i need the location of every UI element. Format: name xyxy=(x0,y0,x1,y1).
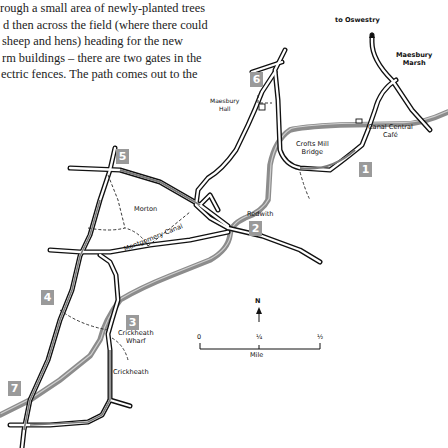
waypoint-badge-2: 2 xyxy=(249,221,262,236)
scale-tick-quarter: ¼ xyxy=(256,333,262,341)
label-crofts-mill-bridge: Crofts Mill Bridge xyxy=(296,141,329,156)
waypoint-badge-6: 6 xyxy=(250,72,263,87)
scale-tick-half: ½ xyxy=(317,333,323,341)
scale-unit: Mile xyxy=(250,351,263,359)
label-redwith: Redwith xyxy=(247,211,274,219)
waypoint-badge-1: 1 xyxy=(359,162,372,177)
walk-map: rough a small area of newly-planted tree… xyxy=(0,0,448,448)
label-maesbury-hall: Maesbury Hall xyxy=(210,97,239,112)
label-to-oswestry: to Oswestry xyxy=(335,17,380,25)
waypoint-badge-5: 5 xyxy=(116,149,129,164)
map-graphics xyxy=(0,0,448,448)
label-crickheath: Crickheath xyxy=(113,369,149,377)
scale-tick-0: 0 xyxy=(197,333,201,341)
label-morton: Morton xyxy=(134,206,157,214)
waypoint-badge-3: 3 xyxy=(126,315,139,330)
label-maesbury-marsh: Maesbury Marsh xyxy=(396,52,432,67)
waypoint-badge-7: 7 xyxy=(8,381,21,396)
label-canal-central-cafe: Canal Central Café xyxy=(368,124,413,139)
north-label: N xyxy=(255,297,260,305)
label-crickheath-wharf: Crickheath Wharf xyxy=(118,330,154,345)
waypoint-badge-4: 4 xyxy=(41,290,54,305)
